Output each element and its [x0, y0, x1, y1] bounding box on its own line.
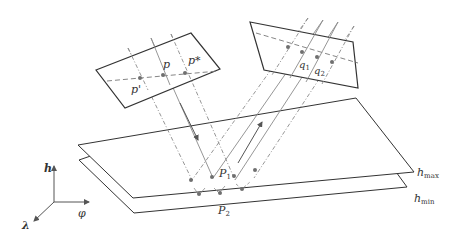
- diagram-canvas: p' p p* q1 q2 P1 P2 hmax hmin h φ λ: [0, 0, 450, 244]
- point-p: [161, 73, 165, 77]
- axis-lambda-arrow-icon: [34, 202, 54, 221]
- label-p-prime: p': [131, 83, 141, 96]
- epipolar-plane-diagram: p' p p* q1 q2 P1 P2 hmax hmin h φ λ: [0, 0, 450, 244]
- point-q0: [286, 45, 290, 49]
- axis-label-lambda: λ: [21, 219, 30, 232]
- point-q2: [315, 55, 319, 59]
- point-p-star: [183, 71, 187, 75]
- label-P2: P2: [217, 204, 230, 218]
- left-image-frame: [96, 33, 220, 108]
- label-p: p: [163, 58, 170, 71]
- point-q1: [300, 50, 304, 54]
- label-p-star: p*: [188, 54, 201, 67]
- axis-label-h: h: [44, 162, 52, 175]
- point-p-prime: [138, 76, 142, 80]
- label-h-max: hmax: [417, 166, 439, 180]
- axis-label-phi: φ: [78, 207, 86, 220]
- point-q3: [330, 60, 334, 64]
- right-image-frame: [250, 18, 358, 88]
- label-h-min: hmin: [414, 192, 435, 206]
